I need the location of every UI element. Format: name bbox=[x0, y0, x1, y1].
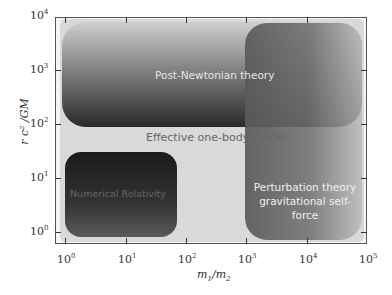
y-axis-label: r c² /GM bbox=[18, 92, 31, 152]
label-pt-line1: Perturbation theory bbox=[254, 181, 357, 193]
label-numerical-relativity: Numerical Relativity bbox=[70, 188, 166, 199]
x-tick-major bbox=[126, 238, 127, 244]
y-tick-major-right bbox=[361, 178, 367, 179]
y-tick-major-right bbox=[361, 70, 367, 71]
x-tick-major bbox=[186, 238, 187, 244]
x-tick-major-top bbox=[186, 17, 187, 23]
x-tick-major-top bbox=[307, 17, 308, 23]
x-tick-major bbox=[246, 238, 247, 244]
x-tick-label: 100 bbox=[57, 253, 75, 266]
label-effective-one-body: Effective one-body model bbox=[146, 131, 287, 144]
label-post-newtonian: Post-Newtonian theory bbox=[155, 69, 274, 81]
y-tick-major bbox=[55, 178, 61, 179]
x-tick-label: 101 bbox=[118, 253, 136, 266]
y-tick-major-right bbox=[361, 232, 367, 233]
x-tick-major bbox=[65, 238, 66, 244]
label-perturbation-theory: Perturbation theory gravitational self-f… bbox=[250, 180, 360, 222]
x-tick-label: 105 bbox=[359, 253, 377, 266]
y-tick-major bbox=[55, 232, 61, 233]
x-tick-label: 104 bbox=[299, 253, 317, 266]
y-tick-label: 102 bbox=[30, 117, 48, 130]
y-tick-label: 101 bbox=[30, 171, 48, 184]
x-tick-major-top bbox=[65, 17, 66, 23]
y-tick-major bbox=[55, 70, 61, 71]
x-tick-label: 103 bbox=[238, 253, 256, 266]
x-tick-label: 102 bbox=[178, 253, 196, 266]
y-tick-major-right bbox=[361, 124, 367, 125]
y-tick-major bbox=[55, 124, 61, 125]
x-tick-major-top bbox=[246, 17, 247, 23]
y-tick-label: 103 bbox=[30, 63, 48, 76]
x-axis-label: m1/m2 bbox=[197, 268, 231, 283]
y-tick-label: 100 bbox=[30, 225, 48, 238]
x-tick-major bbox=[307, 238, 308, 244]
label-pt-line2: gravitational self-force bbox=[259, 195, 351, 221]
y-tick-label: 104 bbox=[30, 9, 48, 22]
x-tick-major-top bbox=[126, 17, 127, 23]
